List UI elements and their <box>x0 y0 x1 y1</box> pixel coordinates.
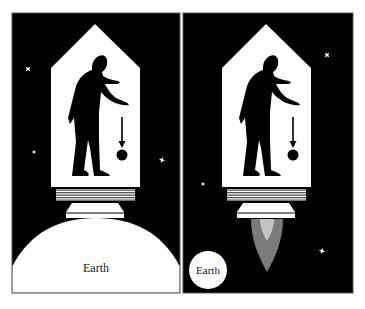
panel-right-accelerating: Earth <box>183 13 353 293</box>
rocket-stripes <box>227 189 306 201</box>
panel-left-on-earth: Earth <box>12 13 180 293</box>
rocket-nozzle <box>237 203 295 218</box>
equivalence-figure: Earth <box>0 0 365 309</box>
earth-label: Earth <box>196 264 220 276</box>
rocket-nozzle <box>66 203 124 218</box>
rocket-stripes <box>56 189 135 201</box>
earth-label: Earth <box>83 261 109 275</box>
